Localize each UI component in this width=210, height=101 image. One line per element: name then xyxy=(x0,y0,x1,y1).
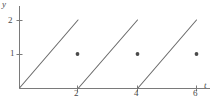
data-point-marker xyxy=(136,52,140,56)
x-tick-label-2: 2 xyxy=(74,89,79,98)
y-tick-label-2: 2 xyxy=(8,16,13,25)
sawtooth-ramp-1 xyxy=(20,20,79,88)
x-tick-label-4: 4 xyxy=(134,89,139,98)
y-tick-label-1: 1 xyxy=(10,49,15,58)
data-point-marker xyxy=(195,52,199,56)
sawtooth-chart-figure: y t 2 1 2 4 6 xyxy=(0,0,210,101)
sawtooth-ramp-3 xyxy=(138,20,197,88)
plot-canvas xyxy=(0,0,210,101)
data-point-marker xyxy=(76,52,80,56)
sawtooth-ramp-2 xyxy=(79,20,138,88)
x-axis-label: t xyxy=(204,81,207,90)
y-axis-label: y xyxy=(2,0,6,9)
x-tick-label-6: 6 xyxy=(193,89,198,98)
